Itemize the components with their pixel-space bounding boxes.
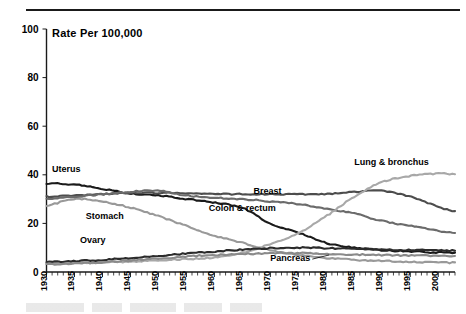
x-axis-group: 1930193519401945195019551960196519701975… — [39, 271, 456, 291]
x-tick-label: 1935 — [66, 271, 76, 291]
x-tick-label: 1950 — [150, 271, 160, 291]
chart-container: Rate Per 100,000 020406080100 1930193519… — [0, 0, 466, 314]
y-tick-label: 40 — [27, 169, 39, 180]
x-tick-label: 1970 — [262, 271, 272, 291]
series-label-ovary: Ovary — [80, 235, 106, 245]
x-tick-label: 1985 — [346, 271, 356, 291]
annotation-group: UterusStomachBreastColon & rectumLung & … — [52, 157, 429, 263]
series-label-breast: Breast — [254, 186, 282, 196]
y-axis-group: 020406080100 — [22, 24, 47, 278]
x-tick-label: 1940 — [94, 271, 104, 291]
y-tick-label: 60 — [27, 121, 39, 132]
x-tick-label: 1990 — [374, 271, 384, 291]
series-label-lung-bronchus: Lung & bronchus — [354, 157, 429, 167]
series-label-colon-rectum: Colon & rectum — [209, 203, 276, 213]
x-tick-label: 1965 — [234, 271, 244, 291]
x-tick-label: 1980 — [318, 271, 328, 291]
x-tick-label: 2000 — [430, 271, 440, 291]
x-tick-label: 1975 — [290, 271, 300, 291]
series-label-pancreas: Pancreas — [270, 253, 310, 263]
y-tick-label: 100 — [22, 24, 39, 35]
x-tick-label: 1955 — [178, 271, 188, 291]
x-tick-label: 1960 — [206, 271, 216, 291]
x-tick-label: 1945 — [122, 271, 132, 291]
footer-caption-ghost — [26, 303, 326, 312]
x-tick-label: 1995 — [402, 271, 412, 291]
x-tick-label: 1930 — [39, 271, 49, 291]
series-label-uterus: Uterus — [52, 164, 81, 174]
y-tick-label: 20 — [27, 218, 39, 229]
series-label-stomach: Stomach — [86, 211, 124, 221]
y-tick-label: 80 — [27, 72, 39, 83]
chart-svg: 020406080100 193019351940194519501955196… — [0, 0, 466, 314]
